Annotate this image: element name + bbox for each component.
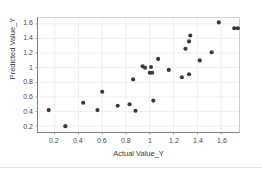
data-point <box>133 109 137 113</box>
x-tick-label: 0.8 <box>114 137 138 145</box>
data-point <box>217 20 221 24</box>
data-point <box>128 102 132 106</box>
data-point <box>188 33 192 37</box>
x-tick-label: 1.6 <box>210 137 234 145</box>
x-tick-label: 1.4 <box>186 137 210 145</box>
data-point <box>151 99 155 103</box>
x-tick-label: 0.6 <box>90 137 114 145</box>
data-point <box>95 108 99 112</box>
data-point <box>187 39 191 43</box>
x-tick-label: 0.2 <box>42 137 66 145</box>
x-axis-title: Actual Value_Y <box>37 149 240 158</box>
data-points-layer <box>38 18 239 132</box>
y-tick-label: 0.4 <box>11 108 33 116</box>
data-point <box>232 26 236 30</box>
plot-area <box>37 17 240 133</box>
y-tick-label: 0.2 <box>11 123 33 131</box>
data-point <box>167 68 171 72</box>
x-tick-label: 1.2 <box>162 137 186 145</box>
data-point <box>81 101 85 105</box>
data-point <box>116 104 120 108</box>
data-point <box>236 26 240 30</box>
data-point <box>131 77 135 81</box>
x-tick-label: 1 <box>138 137 162 145</box>
data-point <box>210 50 214 54</box>
data-point <box>149 65 153 69</box>
data-point <box>183 47 187 51</box>
data-point <box>187 72 191 76</box>
scatter-plot-figure: 0.2 0.4 0.6 0.8 1 1.2 1.4 1.6 0.2 0.4 0.… <box>0 0 262 175</box>
data-point <box>180 75 184 79</box>
data-point <box>63 124 67 128</box>
data-point <box>156 57 160 61</box>
x-tick-label: 0.4 <box>66 137 90 145</box>
data-point <box>198 58 202 62</box>
y-axis-title: Predicted Value_Y <box>8 6 17 92</box>
y-tick-label: 0.6 <box>11 93 33 101</box>
data-point <box>47 108 51 112</box>
data-point <box>150 71 154 75</box>
data-point <box>143 66 147 70</box>
data-point <box>100 90 104 94</box>
